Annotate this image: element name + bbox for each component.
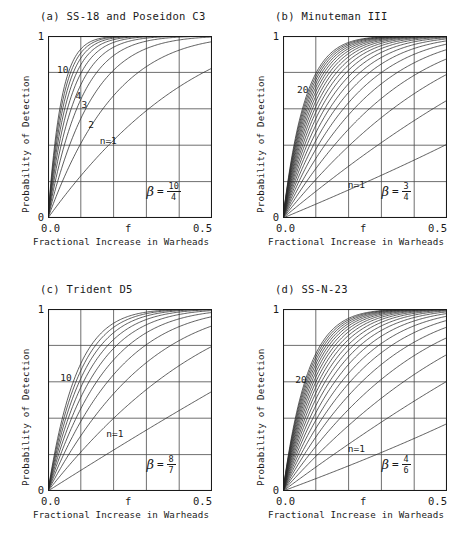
fraction-denominator: 7 — [167, 466, 176, 475]
curve-n-12 — [283, 36, 447, 218]
y-tick-label-top: 1 — [265, 30, 279, 42]
curve-label: 10 — [57, 64, 68, 75]
plot-frame — [49, 37, 212, 218]
figure-four-panel-detection-probability: (a) SS-18 and Poseidon C3Probability of … — [0, 0, 469, 546]
fraction-numerator: 3 — [402, 182, 411, 191]
curve-n-14 — [283, 309, 447, 491]
curve-label: n=1 — [100, 135, 117, 146]
curve-n-3 — [48, 37, 212, 218]
x-axis-label: Fractional Increase in Warheads — [268, 509, 444, 520]
x-axis-label: Fractional Increase in Warheads — [268, 236, 444, 247]
curve-n-5 — [283, 327, 447, 491]
x-tick-label-mid: f — [360, 222, 366, 234]
y-axis-label: Probability of Detection — [255, 75, 266, 213]
panel-title-a: (a) SS-18 and Poseidon C3 — [40, 10, 206, 22]
beta-fraction: 34 — [402, 182, 411, 202]
curve-n-9 — [48, 36, 212, 218]
panel-d: (d) SS-N-23Probability of Detection100.0… — [235, 273, 469, 546]
plot-area-a: 10432n=1β=104 — [48, 36, 212, 218]
fraction-numerator: 10 — [167, 182, 181, 191]
panel-c: (c) Trident D5Probability of Detection10… — [0, 273, 234, 546]
plot-canvas-d — [283, 309, 447, 491]
curve-n-10 — [283, 37, 447, 218]
curve-n-10 — [48, 36, 212, 218]
beta-annotation: β=34 — [381, 182, 410, 202]
curve-family — [283, 309, 447, 491]
x-tick-label-mid: f — [125, 222, 131, 234]
x-tick-label-right: 0.5 — [428, 222, 447, 234]
curve-n-6 — [48, 311, 212, 491]
panel-b: (b) Minuteman IIIProbability of Detectio… — [235, 0, 469, 273]
curve-family — [48, 36, 212, 218]
plot-canvas-a — [48, 36, 212, 218]
x-tick-label-right: 0.5 — [193, 222, 212, 234]
curve-n-17 — [283, 309, 447, 491]
curve-n-12 — [283, 310, 447, 491]
curve-n-4 — [283, 338, 447, 491]
curve-label: n=1 — [348, 179, 365, 190]
panel-title-d: (d) SS-N-23 — [275, 283, 348, 295]
curve-n-1 — [48, 68, 212, 218]
gridlines — [283, 309, 447, 491]
y-axis-label: Probability of Detection — [255, 348, 266, 486]
x-tick-label-left: 0.0 — [276, 222, 295, 234]
curve-n-7 — [48, 310, 212, 491]
curve-n-18 — [283, 309, 447, 491]
fraction-numerator: 4 — [402, 455, 411, 464]
curve-n-8 — [48, 36, 212, 218]
curve-n-9 — [283, 38, 447, 218]
x-tick-label-right: 0.5 — [193, 495, 212, 507]
curve-label: 10 — [60, 372, 71, 383]
curve-n-2 — [48, 346, 212, 491]
curve-n-13 — [283, 309, 447, 491]
y-axis-label: Probability of Detection — [20, 75, 31, 213]
y-tick-label-top: 1 — [30, 303, 44, 315]
beta-symbol: β — [146, 185, 154, 198]
curve-n-7 — [48, 36, 212, 218]
x-tick-label-mid: f — [360, 495, 366, 507]
curve-family — [48, 309, 212, 491]
curve-n-6 — [48, 36, 212, 218]
curve-label: 2 — [88, 119, 94, 130]
beta-symbol: β — [146, 458, 154, 471]
beta-annotation: β=104 — [146, 182, 180, 202]
plot-area-d: 20n=1β=46 — [283, 309, 447, 491]
curve-n-16 — [283, 309, 447, 491]
equals-sign: = — [157, 185, 164, 198]
plot-frame — [284, 37, 447, 218]
curve-n-19 — [283, 309, 447, 491]
curve-label: n=1 — [106, 428, 123, 439]
gridlines — [48, 36, 212, 218]
curve-family — [283, 36, 447, 218]
y-axis-label: Probability of Detection — [20, 348, 31, 486]
curve-n-2 — [283, 100, 447, 218]
curve-label: 20 — [295, 374, 306, 385]
curve-n-20 — [283, 309, 447, 491]
plot-area-b: 20n=1β=34 — [283, 36, 447, 218]
curve-n-15 — [283, 309, 447, 491]
beta-annotation: β=46 — [381, 455, 410, 475]
plot-area-c: 10n=1β=87 — [48, 309, 212, 491]
x-tick-label-left: 0.0 — [41, 495, 60, 507]
panel-title-b: (b) Minuteman III — [275, 10, 388, 22]
curve-n-5 — [283, 50, 447, 218]
beta-fraction: 46 — [402, 455, 411, 475]
panel-a: (a) SS-18 and Poseidon C3Probability of … — [0, 0, 234, 273]
equals-sign: = — [392, 185, 399, 198]
plot-canvas-b — [283, 36, 447, 218]
panel-title-c: (c) Trident D5 — [40, 283, 133, 295]
x-tick-label-left: 0.0 — [276, 495, 295, 507]
curve-n-7 — [283, 41, 447, 218]
x-tick-label-mid: f — [125, 495, 131, 507]
fraction-denominator: 6 — [402, 466, 411, 475]
curve-n-5 — [48, 36, 212, 218]
x-axis-label: Fractional Increase in Warheads — [33, 236, 209, 247]
x-axis-label: Fractional Increase in Warheads — [33, 509, 209, 520]
beta-fraction: 87 — [167, 455, 176, 475]
curve-n-5 — [48, 312, 212, 491]
equals-sign: = — [392, 458, 399, 471]
x-tick-label-right: 0.5 — [428, 495, 447, 507]
fraction-denominator: 4 — [169, 193, 178, 202]
curve-n-8 — [283, 39, 447, 218]
equals-sign: = — [157, 458, 164, 471]
